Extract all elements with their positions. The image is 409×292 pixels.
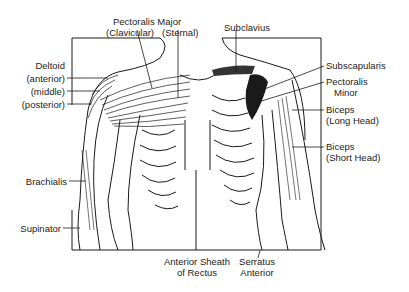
label-biceps-long: Biceps (326, 104, 355, 115)
label-serratus-anterior: Anterior (222, 267, 292, 278)
label-pectoralis-minor-2: Minor (334, 87, 358, 98)
label-biceps-long-head: (Long Head) (326, 115, 379, 126)
label-pectoralis-minor: Pectoralis (326, 76, 368, 87)
label-biceps-short-head: (Short Head) (326, 152, 380, 163)
label-deltoid-middle: (middle) (10, 86, 65, 97)
label-deltoid-posterior: (posterior) (5, 99, 65, 110)
label-brachialis: Brachialis (10, 176, 67, 187)
label-pectoralis-sternal: (Sternal) (162, 27, 198, 38)
label-supinator: Supinator (5, 223, 61, 234)
label-deltoid-anterior: (anterior) (10, 73, 65, 84)
label-subscapularis: Subscapularis (326, 60, 386, 71)
label-serratus: Serratus (222, 256, 292, 267)
pectoralis-minor-shape (246, 74, 268, 120)
label-deltoid: Deltoid (20, 60, 65, 71)
label-subclavius: Subclavius (224, 22, 270, 33)
label-biceps-short: Biceps (326, 141, 355, 152)
label-pectoralis-clavicular: (Clavicular) (106, 27, 154, 38)
label-pectoralis-major: Pectoralis Major (113, 16, 181, 27)
